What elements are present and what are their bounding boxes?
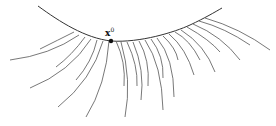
trajectory-curve (151, 39, 163, 78)
trajectory-curve (139, 41, 148, 86)
trajectory-curve (133, 42, 142, 100)
trajectory-curve (116, 41, 124, 86)
trajectory-curve (175, 32, 200, 60)
trajectory-curve (205, 18, 270, 50)
trajectory-curve (187, 27, 220, 52)
point-x0 (109, 39, 113, 43)
trajectory-curve (163, 36, 178, 60)
trajectory-curve (40, 32, 74, 49)
point-label: x0 (105, 26, 114, 38)
trajectory-curve (145, 40, 163, 110)
trajectory-curve (56, 37, 85, 67)
trajectory-curve (157, 38, 174, 97)
trajectory-curve (86, 41, 109, 117)
trajectory-curve (181, 30, 215, 72)
trajectory-curve (193, 24, 240, 60)
trajectory-curve (169, 34, 194, 75)
diagram-canvas (0, 0, 276, 126)
trajectory-curves (10, 18, 270, 117)
